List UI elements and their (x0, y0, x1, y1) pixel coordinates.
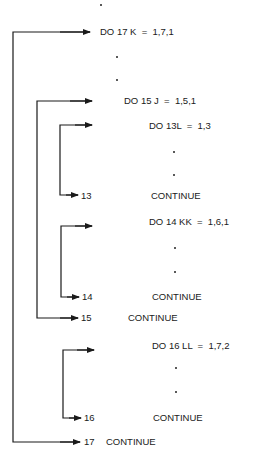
continue-16: CONTINUE (153, 412, 203, 423)
ellipsis-dot (174, 247, 176, 249)
ellipsis-dot (116, 79, 118, 81)
ellipsis-dot (100, 4, 102, 6)
loop-bracket-kk (61, 226, 92, 297)
loop-bracket-k (13, 32, 90, 442)
ellipsis-dot (175, 367, 177, 369)
continue-13: CONTINUE (151, 190, 201, 201)
continue-14: CONTINUE (152, 291, 202, 302)
do14-statement: DO 14 KK = 1,6,1 (149, 216, 229, 227)
nested-loop-diagram (0, 0, 255, 467)
do17-statement: DO 17 K = 1,7,1 (100, 26, 174, 37)
loop-bracket-j (37, 101, 92, 318)
continue-15: CONTINUE (128, 312, 178, 323)
ellipsis-dot (173, 151, 175, 153)
ellipsis-dot (173, 174, 175, 176)
loop-bracket-l (60, 125, 92, 195)
label-13: 13 (81, 190, 92, 201)
label-17: 17 (84, 436, 95, 447)
ellipsis-dot (174, 271, 176, 273)
ellipsis-dot (116, 56, 118, 58)
ellipsis-dot (175, 391, 177, 393)
do16-statement: DO 16 LL = 1,7,2 (152, 340, 230, 351)
loop-bracket-ll (63, 350, 94, 418)
continue-17: CONTINUE (106, 436, 156, 447)
label-14: 14 (82, 291, 93, 302)
do13-statement: DO 13L = 1,3 (149, 120, 211, 131)
label-16: 16 (84, 412, 95, 423)
do15-statement: DO 15 J = 1,5,1 (124, 95, 196, 106)
label-15: 15 (81, 312, 92, 323)
